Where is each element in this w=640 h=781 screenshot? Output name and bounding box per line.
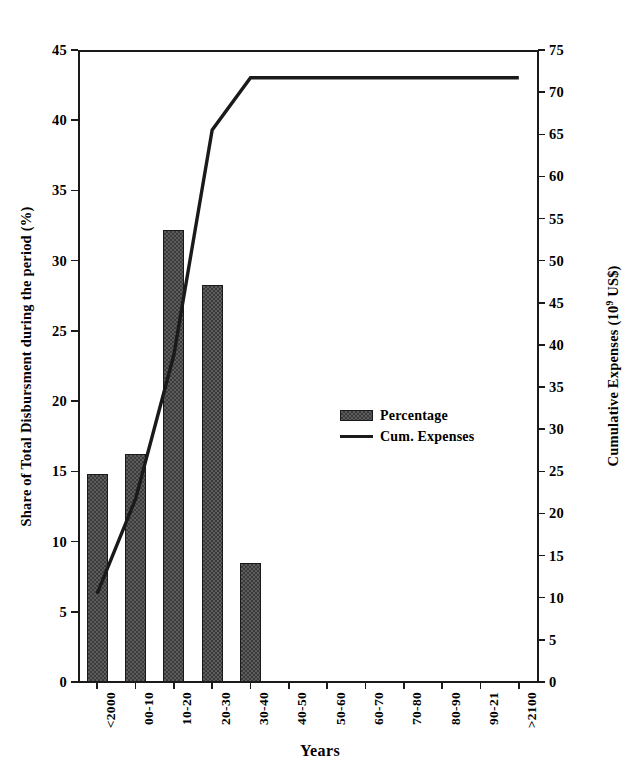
x-tick [135,682,137,689]
y2-tick [538,302,545,304]
y2-tick-label: 35 [549,379,564,396]
y2-tick-label: 55 [549,210,564,227]
y-axis-title: Share of Total Disbursment during the pe… [17,50,37,682]
legend-label-cum-expenses: Cum. Expenses [380,429,474,445]
x-tick-label: >2100 [524,692,540,728]
x-tick [211,682,213,689]
y2-tick [538,639,545,641]
y-tick [71,400,78,402]
x-tick [365,682,367,689]
x-tick-label: 20-30 [218,692,234,725]
y-axis-title-text: Share of Total Disbursment during the pe… [19,206,36,526]
plot-area: 051015202530354045 051015202530354045505… [78,50,538,682]
y2-tick-label: 20 [549,505,564,522]
y-tick [71,49,78,51]
y2-tick-label: 40 [549,336,564,353]
x-tick [441,682,443,689]
x-tick-label: 30-40 [256,692,272,725]
y-tick-label: 25 [52,322,67,339]
y-tick-label: 10 [52,533,67,550]
y2-tick-label: 45 [549,294,564,311]
secondary-y-axis-title-text: Cumulative Expenses (109 US$) [605,265,623,466]
line-series-cumulative-expenses [78,50,538,682]
y2-tick [538,260,545,262]
x-tick-label: 10-20 [179,692,195,725]
y2-title-tail: US$) [606,265,622,300]
y2-tick [538,471,545,473]
x-tick [326,682,328,689]
figure-canvas: Share of Total Disbursment during the pe… [0,0,640,781]
x-axis-title: Years [0,742,640,760]
y2-tick-label: 15 [549,547,564,564]
y2-tick [538,344,545,346]
y2-tick [538,513,545,515]
legend-swatch-line-icon [340,435,373,438]
y2-tick-label: 25 [549,463,564,480]
y-tick [71,260,78,262]
y-tick-label: 0 [60,674,67,691]
y2-tick [538,218,545,220]
legend: Percentage Cum. Expenses [340,405,474,447]
y2-tick-label: 0 [549,674,556,691]
y2-tick [538,681,545,683]
y-tick-label: 45 [52,42,67,59]
y-tick [71,119,78,121]
y2-tick-label: 70 [549,84,564,101]
y-tick-label: 30 [52,252,67,269]
y-tick [71,330,78,332]
y2-tick-label: 60 [549,168,564,185]
legend-item-cum-expenses: Cum. Expenses [340,426,474,447]
y-tick-label: 35 [52,182,67,199]
y-tick-label: 15 [52,463,67,480]
legend-swatch-bar-icon [340,410,373,421]
y-tick [71,611,78,613]
x-tick-label: 90-21 [486,692,502,725]
secondary-y-axis-title: Cumulative Expenses (109 US$) [604,50,624,682]
y2-tick-label: 75 [549,42,564,59]
y-tick-label: 40 [52,112,67,129]
x-tick-label: 40-50 [294,692,310,725]
y-tick [71,190,78,192]
y-tick-label: 20 [52,393,67,410]
x-tick-label: <2000 [103,692,119,728]
x-tick-label: 00-10 [141,692,157,725]
x-tick-label: 60-70 [371,692,387,725]
y-tick-label: 5 [60,603,67,620]
x-tick [173,682,175,689]
y2-tick [538,91,545,93]
y2-tick-label: 30 [549,421,564,438]
y2-tick [538,49,545,51]
cumulative-expenses-polyline [97,78,519,594]
x-tick [288,682,290,689]
x-tick-label: 80-90 [448,692,464,725]
y-tick [71,471,78,473]
y-tick [71,541,78,543]
legend-item-percentage: Percentage [340,405,474,426]
y2-tick [538,428,545,430]
y2-tick [538,386,545,388]
legend-label-percentage: Percentage [380,408,448,424]
x-tick-label: 70-80 [409,692,425,725]
x-tick [96,682,98,689]
y-tick [71,681,78,683]
y2-title-exponent: 9 [605,301,615,306]
x-tick [480,682,482,689]
y2-tick [538,555,545,557]
y2-title-head: Cumulative Expenses (10 [606,306,622,467]
y2-tick-label: 5 [549,631,556,648]
y2-tick-label: 50 [549,252,564,269]
x-tick [250,682,252,689]
x-tick-label: 50-60 [333,692,349,725]
y2-tick [538,134,545,136]
y2-tick [538,597,545,599]
x-tick [403,682,405,689]
y2-tick-label: 10 [549,589,564,606]
y2-tick-label: 65 [549,126,564,143]
x-tick [518,682,520,689]
y2-tick [538,176,545,178]
